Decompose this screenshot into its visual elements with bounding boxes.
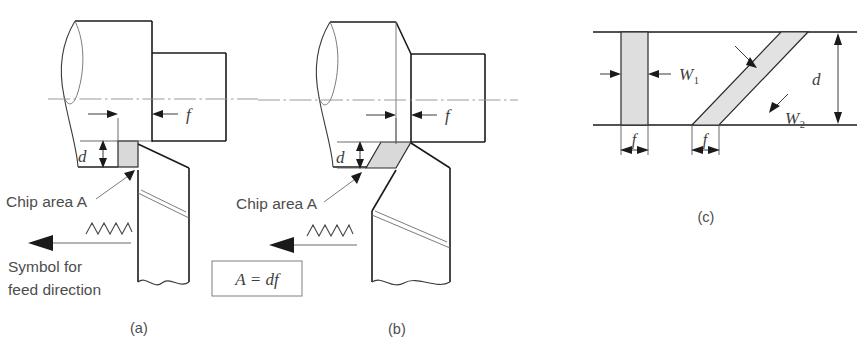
panel-c-band-square: [621, 32, 648, 125]
panel-b-feed-symbol-arrowhead: [269, 237, 294, 253]
panel-c-depth-arrow-up: [834, 33, 842, 45]
equation-text: A = df: [234, 270, 281, 289]
panel-c-f-right-arrow-b: [708, 146, 720, 154]
panel-b-feed-arrow-left: [385, 111, 396, 119]
equation-box: A = df: [212, 261, 302, 296]
panel-a-chip-area-label: Chip area A: [6, 193, 88, 210]
panel-c-w1-arrow-left: [610, 70, 621, 78]
panel-a-feed-label: f: [186, 105, 193, 124]
panel-a-tool-insert-line-1: [138, 193, 189, 218]
panel-a-feed-symbol-line1: Symbol for: [8, 258, 82, 275]
panel-a-chip-leader-line: [96, 174, 131, 199]
panel-a-feed-symbol-line2: feed direction: [8, 281, 101, 298]
panel-c-f-left-arrow-a: [620, 146, 632, 154]
panel-a-tool-rake-face: [138, 144, 189, 168]
panel-c-f-left-arrow-b: [637, 146, 649, 154]
panel-a-cylinder-end-ellipse: [61, 21, 78, 167]
figure-root: f d Chip area A Symbol for feed: [0, 0, 866, 353]
panel-c-f-right-arrow-a: [691, 146, 703, 154]
panel-a-feed-arrow-left: [107, 110, 118, 118]
panel-b-feed-zigzag-icon: [307, 225, 353, 236]
panel-b-feed-label: f: [445, 106, 452, 125]
panel-a-chip-area-shape: [118, 141, 138, 167]
panel-a-feed-symbol-arrowhead: [28, 235, 53, 251]
panel-b-tool-rake-face: [411, 143, 450, 168]
panel-b-tool-insert-line-1: [372, 215, 450, 248]
panel-b-cylinder-end-ellipse-back: [319, 22, 338, 105]
panel-b-chip-area-shape: [366, 142, 411, 168]
panel-a-feed-arrow-right: [152, 110, 163, 118]
panel-b-depth-label: d: [336, 148, 345, 167]
panel-b-tool-break-line: [372, 280, 450, 285]
turning-chip-area-figure: f d Chip area A Symbol for feed: [0, 0, 866, 353]
panel-c-depth-label: d: [812, 70, 821, 89]
panel-b-tool-insert-line-2: [375, 211, 447, 242]
panel-a-cylinder-end-ellipse-back: [64, 21, 83, 104]
panel-a-feed-zigzag-icon: [86, 223, 132, 234]
panel-c-caption: (c): [698, 209, 715, 225]
panel-a-depth-label: d: [78, 147, 87, 166]
panel-b-depth-arrow-up: [356, 141, 364, 151]
panel-b-tool-left-nose: [372, 170, 396, 211]
panel-c-w2-label: W2: [785, 109, 805, 130]
panel-a-tool-break-line: [138, 280, 189, 285]
panel-c: W1 W2 d f f (c): [593, 32, 857, 225]
panel-b-chip-leader-arrowhead: [351, 172, 362, 184]
panel-b-cylinder-end-ellipse: [316, 22, 333, 167]
panel-a-depth-arrow-up: [99, 140, 107, 150]
panel-a-tool-insert-line-2: [141, 190, 186, 212]
panel-b-chip-leader-line: [324, 177, 358, 202]
panel-c-w1-label: W1: [679, 65, 699, 86]
panel-a-caption: (a): [130, 320, 148, 336]
panel-b-chip-area-label: Chip area A: [236, 195, 318, 212]
panel-c-depth-arrow-down: [834, 112, 842, 124]
panel-b-feed-arrow-right: [411, 111, 422, 119]
panel-a-chip-leader-arrowhead: [124, 170, 135, 181]
panel-c-w1-arrow-right: [648, 70, 659, 78]
panel-b-chamfer-face: [396, 22, 411, 54]
panel-b-caption: (b): [388, 321, 406, 337]
